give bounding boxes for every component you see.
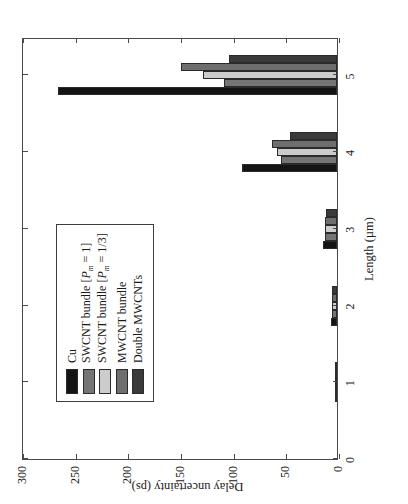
legend-label: Double MWCNTs [132, 275, 144, 363]
y-tick-label: 250 [69, 466, 81, 504]
x-tick-top [23, 305, 28, 306]
x-tick-label: 4 [344, 150, 356, 156]
y-tick [234, 455, 235, 460]
x-tick-top [23, 228, 28, 229]
bar [331, 318, 337, 326]
legend-label: Cu [66, 349, 78, 363]
y-tick-right [181, 39, 182, 44]
x-tick [333, 305, 338, 306]
legend-label: SWCNT bundle [Pm = 1/3] [96, 233, 113, 363]
bar [325, 217, 337, 225]
legend-item: SWCNT bundle [Pm = 1] [81, 233, 96, 394]
y-tick [286, 455, 287, 460]
y-tick-label: 100 [227, 466, 239, 504]
x-tick-top [23, 381, 28, 382]
bar [332, 310, 337, 318]
y-tick-label: 200 [121, 466, 133, 504]
y-tick-label: 150 [174, 466, 186, 504]
bar [326, 209, 337, 217]
legend-swatch [83, 369, 95, 394]
bar [323, 241, 337, 249]
bar [58, 87, 337, 95]
bar [224, 79, 337, 87]
bar [242, 164, 337, 172]
bar [335, 394, 337, 402]
plot-area: CuSWCNT bundle [Pm = 1]SWCNT bundle [Pm … [22, 38, 338, 460]
y-tick [76, 455, 77, 460]
y-tick-label: 0 [332, 466, 344, 504]
legend-item: Cu [65, 233, 80, 394]
x-tick-label: 2 [344, 304, 356, 310]
legend-swatch [66, 369, 78, 394]
y-tick-right [339, 39, 340, 44]
legend-item: MWCNT bundle [114, 233, 129, 394]
bar [332, 302, 337, 310]
y-tick-label: 50 [279, 466, 291, 504]
x-tick-label: 3 [344, 227, 356, 233]
legend-item: Double MWCNTs [131, 233, 146, 394]
x-tick-label: 0 [344, 457, 356, 463]
bar [281, 156, 337, 164]
y-tick-right [128, 39, 129, 44]
bar [290, 132, 337, 140]
figure: Delay uncertainty (ps) Length (µm) CuSWC… [0, 0, 408, 504]
bar [181, 63, 337, 71]
legend-swatch [116, 369, 128, 394]
x-tick-label: 1 [344, 380, 356, 386]
y-tick-right [76, 39, 77, 44]
x-tick [333, 74, 338, 75]
y-tick [23, 455, 24, 460]
y-tick [339, 455, 340, 460]
y-tick-right [286, 39, 287, 44]
bar [335, 370, 337, 378]
x-tick-label: 5 [344, 73, 356, 79]
bar [335, 362, 337, 370]
y-tick-right [234, 39, 235, 44]
bar [332, 286, 337, 294]
x-tick [333, 381, 338, 382]
y-tick [128, 455, 129, 460]
x-axis-title: Length (µm) [362, 217, 377, 281]
y-tick-label: 300 [16, 466, 28, 504]
x-tick-top [23, 151, 28, 152]
bar [203, 71, 337, 79]
legend-swatch [99, 369, 111, 394]
bar [335, 386, 337, 394]
legend-label: MWCNT bundle [116, 282, 128, 363]
chart-page: Delay uncertainty (ps) Length (µm) CuSWC… [0, 0, 408, 504]
legend-swatch [132, 369, 144, 394]
bar [325, 225, 337, 233]
y-tick [181, 455, 182, 460]
x-tick [333, 228, 338, 229]
bar [335, 378, 337, 386]
legend-item: SWCNT bundle [Pm = 1/3] [98, 233, 113, 394]
bar [277, 148, 337, 156]
y-tick-right [23, 39, 24, 44]
legend: CuSWCNT bundle [Pm = 1]SWCNT bundle [Pm … [56, 224, 154, 402]
bar [332, 294, 337, 302]
bar [325, 233, 337, 241]
rotated-figure-wrapper: Delay uncertainty (ps) Length (µm) CuSWC… [0, 0, 408, 504]
x-tick [333, 151, 338, 152]
x-tick [333, 458, 338, 459]
bar [229, 55, 337, 63]
bar [272, 140, 337, 148]
x-tick-top [23, 74, 28, 75]
